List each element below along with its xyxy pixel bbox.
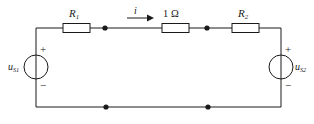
voltage-source-us2-label-subscript: S2 [300,66,306,73]
current-arrow-label: i [134,6,137,16]
resistor-r2-body [232,24,259,33]
voltage-source-us2-minus-sign: − [285,80,291,91]
resistor-r2-label-text: R [238,7,245,19]
resistor-1-ohm-label: 1 Ω [163,9,179,20]
voltage-source-us1-label: uS1 [8,62,19,72]
resistor-r1-label-text: R [69,7,76,19]
circuit-diagram: R1 1 Ω R2 i uS1 + − uS2 + − [0,0,314,124]
node-dot-bottom-left [103,104,108,109]
resistor-r1-label-subscript: 1 [76,13,79,20]
resistor-r1-label: R1 [69,8,79,19]
voltage-source-us1-plus-sign: + [40,44,46,55]
voltage-source-us1-label-subscript: S1 [13,66,19,73]
node-dot-top-right [204,25,209,30]
current-arrow-i-glyph [127,15,154,22]
voltage-source-us2-label: uS2 [295,62,306,72]
circuit-schematic-canvas [0,0,314,124]
voltage-source-us2-plus-sign: + [285,44,291,55]
resistor-r1-body [63,24,90,33]
node-dot-top-left [102,25,107,30]
resistor-r2-label: R2 [238,8,248,19]
voltage-source-us1-minus-sign: − [40,80,46,91]
node-dot-bottom-right [205,104,210,109]
resistor-1-ohm-body [162,24,189,33]
resistor-r2-label-subscript: 2 [245,13,248,20]
